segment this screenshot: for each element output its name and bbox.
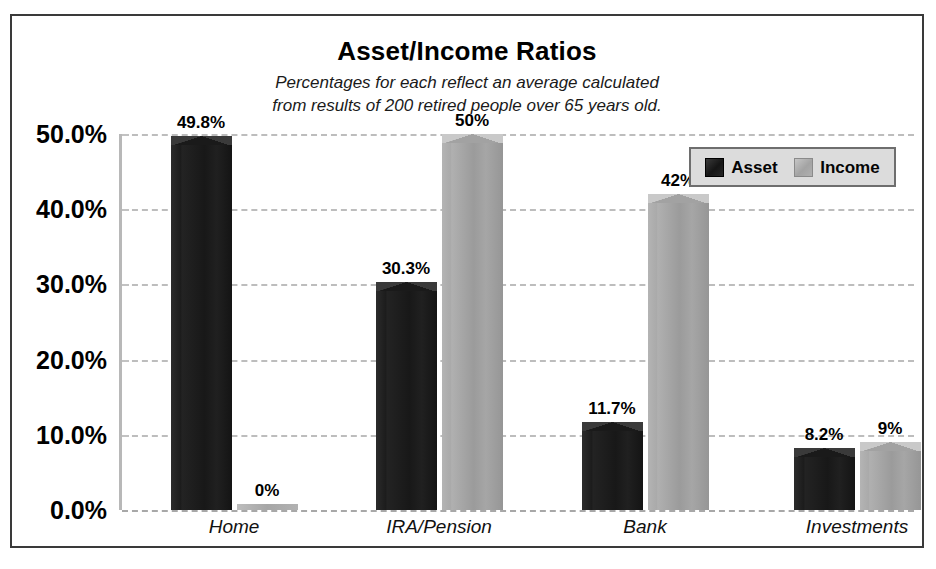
bar-value-label: 9%: [878, 419, 903, 439]
y-axis-tick-label: 40.0%: [36, 195, 107, 224]
y-axis-tick-label: 50.0%: [36, 120, 107, 149]
bar-body: [648, 203, 709, 510]
bar-value-label: 11.7%: [588, 399, 635, 419]
legend-swatch-income-icon: [794, 158, 813, 177]
gridline: [122, 510, 914, 512]
y-axis-tick-mark: [122, 134, 129, 136]
bar-body: [376, 291, 437, 510]
gridline: [122, 134, 914, 136]
legend-label-income: Income: [820, 159, 880, 176]
bar-home-income[interactable]: 0%: [237, 504, 298, 510]
legend-item-asset[interactable]: Asset: [705, 158, 777, 177]
bar-value-label: 8.2%: [805, 425, 844, 445]
chart-legend[interactable]: Asset Income: [689, 147, 896, 187]
legend-swatch-asset-icon: [705, 158, 724, 177]
bar-investments-asset[interactable]: 8.2%: [794, 448, 855, 510]
chart-frame: Asset/Income Ratios Percentages for each…: [10, 14, 924, 548]
bar-value-label: 50%: [455, 111, 489, 131]
bar-body: [171, 145, 232, 510]
bar-body: [442, 143, 503, 510]
y-axis-tick-mark: [122, 435, 129, 437]
y-axis-tick-label: 0.0%: [50, 496, 107, 525]
category-label-ira-pension: IRA/Pension: [386, 516, 492, 538]
bar-bank-income[interactable]: 42%: [648, 194, 709, 510]
y-axis-tick-mark: [122, 284, 129, 286]
bar-investments-income[interactable]: 9%: [860, 442, 921, 510]
bar-body: [860, 451, 921, 510]
category-label-investments: Investments: [806, 516, 908, 538]
bar-value-label: 0%: [255, 481, 280, 501]
bar-body: [237, 504, 298, 510]
chart-title: Asset/Income Ratios: [12, 36, 922, 67]
y-axis-tick-label: 10.0%: [36, 420, 107, 449]
y-axis-tick-label: 30.0%: [36, 270, 107, 299]
gridline: [122, 284, 914, 286]
bar-value-label: 30.3%: [382, 259, 430, 279]
chart-subtitle-line-1: Percentages for each reflect an average …: [12, 72, 922, 95]
legend-label-asset: Asset: [731, 159, 777, 176]
bar-value-label: 49.8%: [177, 113, 225, 133]
bar-home-asset[interactable]: 49.8%: [171, 136, 232, 510]
y-axis-tick-mark: [122, 209, 129, 211]
bar-body: [582, 431, 643, 510]
category-label-home: Home: [209, 516, 260, 538]
bar-body: [794, 457, 855, 510]
y-axis-tick-mark: [122, 360, 129, 362]
gridline: [122, 435, 914, 437]
bar-ira-pension-income[interactable]: 50%: [442, 134, 503, 510]
legend-item-income[interactable]: Income: [794, 158, 880, 177]
plot-area: 0.0%10.0%20.0%30.0%40.0%50.0% 49.8%0%30.…: [119, 134, 914, 510]
gridline: [122, 209, 914, 211]
y-axis-tick-label: 20.0%: [36, 345, 107, 374]
gridline: [122, 360, 914, 362]
bar-bank-asset[interactable]: 11.7%: [582, 422, 643, 510]
category-label-bank: Bank: [623, 516, 666, 538]
y-axis-line: [119, 134, 122, 510]
bar-ira-pension-asset[interactable]: 30.3%: [376, 282, 437, 510]
